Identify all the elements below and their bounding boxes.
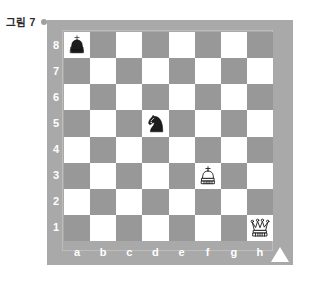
board-square-d8[interactable] [142,32,168,58]
board-square-f7[interactable] [195,58,221,84]
figure-caption-label: 그림 7 [6,16,36,28]
board-square-f6[interactable] [195,84,221,110]
board-square-h1[interactable] [247,215,273,241]
board-square-e1[interactable] [169,215,195,241]
board-square-b8[interactable] [90,32,116,58]
board-square-c3[interactable] [116,163,142,189]
board-square-d3[interactable] [142,163,168,189]
file-label-a: a [64,244,90,261]
board-square-a1[interactable] [64,215,90,241]
board-square-g2[interactable] [221,189,247,215]
board-square-c8[interactable] [116,32,142,58]
board-square-h7[interactable] [247,58,273,84]
rank-label-1: 1 [49,215,63,241]
rank-label-2: 2 [49,189,63,215]
rank-label-6: 6 [49,84,63,110]
chess-board-frame: 8 7 6 5 4 3 2 1 a b c d e f g h [47,20,293,265]
file-label-f: f [195,244,221,261]
board-square-h8[interactable] [247,32,273,58]
board-square-a7[interactable] [64,58,90,84]
triangle-up-icon [271,247,289,262]
file-label-g: g [221,244,247,261]
board-square-c6[interactable] [116,84,142,110]
board-square-d4[interactable] [142,137,168,163]
board-square-h6[interactable] [247,84,273,110]
board-square-f5[interactable] [195,110,221,136]
board-square-a6[interactable] [64,84,90,110]
board-square-b4[interactable] [90,137,116,163]
board-square-d7[interactable] [142,58,168,84]
board-square-d1[interactable] [142,215,168,241]
board-square-g6[interactable] [221,84,247,110]
board-square-b7[interactable] [90,58,116,84]
board-square-g8[interactable] [221,32,247,58]
board-square-b6[interactable] [90,84,116,110]
rank-label-3: 3 [49,163,63,189]
board-square-b5[interactable] [90,110,116,136]
board-square-g5[interactable] [221,110,247,136]
board-square-h4[interactable] [247,137,273,163]
board-square-g4[interactable] [221,137,247,163]
board-square-b2[interactable] [90,189,116,215]
file-label-e: e [169,244,195,261]
board-square-f1[interactable] [195,215,221,241]
board-square-c5[interactable] [116,110,142,136]
board-square-a8[interactable] [64,32,90,58]
file-label-d: d [142,244,168,261]
piece-white-queen-h1[interactable] [248,216,272,240]
board-square-e8[interactable] [169,32,195,58]
board-square-a3[interactable] [64,163,90,189]
board-square-g7[interactable] [221,58,247,84]
board-square-b3[interactable] [90,163,116,189]
file-label-b: b [90,244,116,261]
board-square-f4[interactable] [195,137,221,163]
board-square-e3[interactable] [169,163,195,189]
rank-label-4: 4 [49,137,63,163]
rank-label-8: 8 [49,32,63,58]
board-square-e4[interactable] [169,137,195,163]
board-square-f3[interactable] [195,163,221,189]
board-square-d6[interactable] [142,84,168,110]
board-square-c7[interactable] [116,58,142,84]
board-square-g1[interactable] [221,215,247,241]
file-label-c: c [116,244,142,261]
board-square-b1[interactable] [90,215,116,241]
board-square-g3[interactable] [221,163,247,189]
bullet-dot-icon [41,19,47,25]
board-square-f2[interactable] [195,189,221,215]
figure-caption: 그림 7 [6,16,47,28]
board-square-d2[interactable] [142,189,168,215]
board-square-h3[interactable] [247,163,273,189]
board-square-a4[interactable] [64,137,90,163]
rank-label-5: 5 [49,110,63,136]
figure-container: 그림 7 8 7 6 5 4 3 2 1 a b c d e f g h [0,0,310,285]
board-square-e5[interactable] [169,110,195,136]
board-square-a2[interactable] [64,189,90,215]
chess-board-grid[interactable] [64,32,273,241]
board-square-h2[interactable] [247,189,273,215]
board-square-h5[interactable] [247,110,273,136]
file-label-row: a b c d e f g h [64,244,273,261]
rank-label-7: 7 [49,58,63,84]
board-square-a5[interactable] [64,110,90,136]
board-square-c4[interactable] [116,137,142,163]
board-square-c1[interactable] [116,215,142,241]
board-square-e7[interactable] [169,58,195,84]
board-square-e6[interactable] [169,84,195,110]
piece-black-king-a8[interactable] [65,33,89,57]
board-square-d5[interactable] [142,110,168,136]
file-label-h: h [247,244,273,261]
rank-label-column: 8 7 6 5 4 3 2 1 [49,32,63,241]
piece-white-king-f3[interactable] [196,164,220,188]
board-square-f8[interactable] [195,32,221,58]
board-square-c2[interactable] [116,189,142,215]
piece-black-knight-d5[interactable] [143,111,167,135]
board-square-e2[interactable] [169,189,195,215]
